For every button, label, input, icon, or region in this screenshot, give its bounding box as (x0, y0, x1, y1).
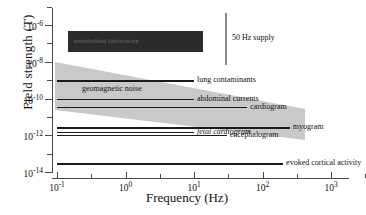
signal-label-evoked-cortical-activity: evoked cortical activity (286, 158, 361, 167)
signal-line-encephalogram (57, 135, 227, 136)
signal-label-lung-contaminants: lung contaminants (197, 75, 256, 84)
y-tick-minor (47, 7, 52, 8)
y-tick-label--8: 10-8 (27, 56, 43, 69)
fifty-hz-supply-line (225, 13, 227, 65)
geomagnetic-noise-label: geomagnetic noise (82, 84, 142, 93)
signal-line-lung-contaminants (57, 80, 194, 81)
x-axis-line (52, 178, 349, 179)
signal-line-evoked-cortical-activity (57, 163, 283, 164)
x-tick-label-0: 100 (119, 180, 132, 193)
x-tick-3 (331, 172, 332, 178)
signal-line-cardiogram (57, 107, 247, 108)
unshielded-laboratory-box: unshielded laboratory (68, 31, 203, 52)
y-tick--8 (45, 62, 52, 63)
x-tick-label-2: 102 (256, 180, 269, 193)
y-tick-label--14: 10-14 (24, 166, 44, 179)
y-tick--12 (45, 135, 52, 136)
x-tick-0 (126, 172, 127, 178)
y-tick-minor (47, 43, 52, 44)
y-tick-label--12: 10-12 (24, 129, 44, 142)
signal-label-cardiogram: cardiogram (250, 102, 286, 111)
signal-label-encephalogram: encephalogram (230, 130, 279, 139)
unshielded-laboratory-label: unshielded laboratory (74, 37, 139, 45)
fifty-hz-supply-label: 50 Hz supply (232, 33, 275, 42)
x-tick-minor (228, 174, 229, 178)
y-tick-minor (47, 117, 52, 118)
x-tick-label-3: 103 (324, 180, 337, 193)
signal-line-fetal-cardiogram (57, 132, 194, 133)
y-tick-label--6: 10-6 (27, 19, 43, 32)
y-tick-minor (47, 80, 52, 81)
x-tick-minor (91, 174, 92, 178)
signal-line-myogram (57, 127, 290, 128)
signal-label-myogram: myogram (293, 122, 324, 131)
x-tick--1 (57, 172, 58, 178)
x-tick-minor (297, 174, 298, 178)
x-tick-1 (194, 172, 195, 178)
y-tick--6 (45, 25, 52, 26)
x-tick-minor (160, 174, 161, 178)
y-tick-minor (47, 154, 52, 155)
y-axis-line (52, 8, 53, 173)
y-tick--10 (45, 99, 52, 100)
y-tick--14 (45, 172, 52, 173)
x-tick-label--1: 10-1 (49, 180, 65, 193)
signal-line-abdominal-currents (57, 99, 194, 100)
x-tick-label-1: 101 (187, 180, 200, 193)
x-tick-2 (263, 172, 264, 178)
y-tick-label--10: 10-10 (24, 93, 44, 106)
